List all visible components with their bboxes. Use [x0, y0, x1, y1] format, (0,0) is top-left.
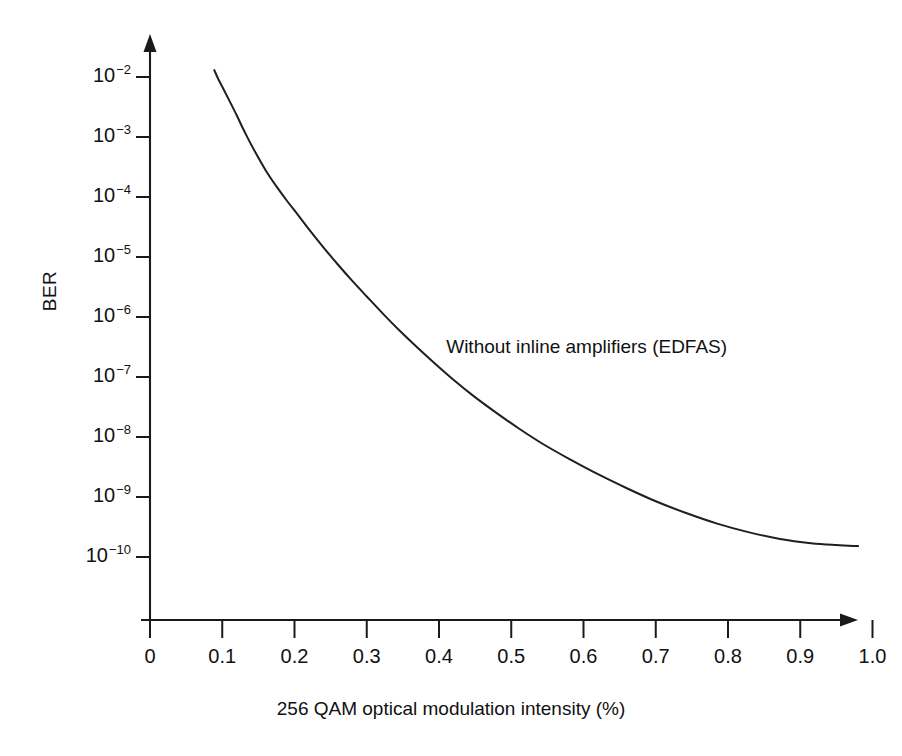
- y-tick-base: 10: [93, 484, 115, 506]
- data-curve-without-inline-amplifiers: [214, 70, 858, 546]
- y-tick-base: 10: [93, 304, 115, 326]
- y-tick-label: 10−10: [86, 545, 131, 565]
- x-tick-label: 0.1: [192, 646, 252, 666]
- y-tick-label: 10−8: [93, 425, 131, 445]
- y-tick-base: 10: [93, 64, 115, 86]
- y-tick-exponent: −2: [116, 62, 131, 77]
- x-axis-arrow-icon: [840, 614, 858, 627]
- y-tick-marks: [136, 77, 150, 557]
- x-tick-label: 0.8: [698, 646, 758, 666]
- y-tick-label: 10−2: [93, 65, 131, 85]
- y-tick-base: 10: [93, 244, 115, 266]
- x-tick-label: 1.0: [843, 646, 902, 666]
- y-tick-base: 10: [93, 124, 115, 146]
- y-axis-arrow-icon: [144, 34, 157, 52]
- x-tick-label: 0.3: [337, 646, 397, 666]
- y-tick-exponent: −3: [116, 122, 131, 137]
- y-tick-exponent: −10: [109, 542, 131, 557]
- y-axis-title: BER: [39, 251, 61, 331]
- y-tick-base: 10: [93, 364, 115, 386]
- y-tick-label: 10−5: [93, 245, 131, 265]
- y-tick-label: 10−7: [93, 365, 131, 385]
- curve-annotation-label: Without inline amplifiers (EDFAS): [446, 336, 727, 358]
- x-tick-label: 0.4: [409, 646, 469, 666]
- x-tick-label: 0.7: [626, 646, 686, 666]
- y-tick-label: 10−4: [93, 185, 131, 205]
- x-tick-label: 0.9: [770, 646, 830, 666]
- y-tick-exponent: −8: [116, 422, 131, 437]
- x-tick-label: 0.6: [554, 646, 614, 666]
- y-tick-exponent: −5: [116, 242, 131, 257]
- x-tick-label: 0.2: [265, 646, 325, 666]
- ber-chart: 10−210−310−410−510−610−710−810−910−10 00…: [0, 0, 902, 756]
- y-tick-label: 10−9: [93, 485, 131, 505]
- y-tick-exponent: −7: [116, 362, 131, 377]
- y-tick-base: 10: [93, 184, 115, 206]
- y-tick-label: 10−3: [93, 125, 131, 145]
- y-tick-exponent: −4: [116, 182, 131, 197]
- plot-canvas: [0, 0, 902, 756]
- x-tick-label: 0.5: [481, 646, 541, 666]
- y-tick-base: 10: [93, 424, 115, 446]
- x-axis-title: 256 QAM optical modulation intensity (%): [0, 698, 902, 720]
- y-tick-exponent: −9: [116, 482, 131, 497]
- x-tick-label: 0: [120, 646, 180, 666]
- y-tick-base: 10: [86, 544, 108, 566]
- y-tick-exponent: −6: [116, 302, 131, 317]
- y-tick-label: 10−6: [93, 305, 131, 325]
